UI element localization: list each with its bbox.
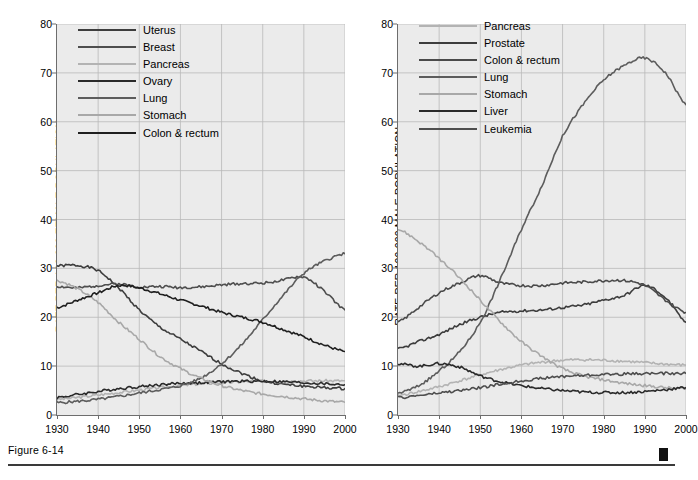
legend-line-swatch	[419, 93, 477, 95]
y-tick-label: 50	[381, 165, 393, 177]
x-tick-mark	[645, 415, 646, 419]
x-tick-label: 1970	[210, 423, 233, 435]
x-tick-label: 1940	[427, 423, 450, 435]
legend-item: Ovary	[78, 74, 219, 89]
legend-item: Lung	[419, 70, 560, 85]
y-tick-mark	[393, 366, 397, 367]
legend-item: Pancreas	[78, 56, 219, 71]
legend-line-swatch	[419, 25, 477, 27]
legend-item: Colon & rectum	[419, 52, 560, 67]
legend-item-label: Uterus	[143, 24, 175, 36]
legend-item: Stomach	[419, 87, 560, 102]
x-tick-mark	[439, 415, 440, 419]
caption-divider	[8, 464, 675, 466]
y-tick-mark	[393, 268, 397, 269]
y-tick-label: 70	[40, 67, 52, 79]
y-tick-label: 70	[381, 67, 393, 79]
legend-item-label: Ovary	[143, 75, 172, 87]
legend-line-swatch	[78, 63, 136, 65]
legend-line-swatch	[419, 128, 477, 130]
legend-item: Liver	[419, 104, 560, 119]
charts-row: RATE PER 100,000 FEMALE POPULATION 01020…	[0, 0, 683, 440]
y-tick-mark	[52, 366, 56, 367]
x-tick-mark	[521, 415, 522, 419]
y-tick-label: 20	[381, 311, 393, 323]
x-tick-label: 2000	[674, 423, 697, 435]
x-tick-mark	[57, 415, 58, 419]
legend-item-label: Breast	[143, 41, 175, 53]
y-tick-mark	[393, 24, 397, 25]
legend-item-label: Stomach	[484, 88, 527, 100]
x-tick-label: 1950	[469, 423, 492, 435]
y-tick-mark	[52, 415, 56, 416]
x-tick-mark	[98, 415, 99, 419]
x-tick-label: 1960	[510, 423, 533, 435]
y-tick-mark	[393, 170, 397, 171]
x-tick-label: 1980	[251, 423, 274, 435]
x-tick-mark	[604, 415, 605, 419]
y-tick-label: 20	[40, 311, 52, 323]
y-tick-label: 60	[40, 116, 52, 128]
y-tick-mark	[52, 170, 56, 171]
legend-item: Prostate	[419, 35, 560, 50]
x-tick-label: 1940	[86, 423, 109, 435]
legend-item-label: Stomach	[143, 109, 186, 121]
legend-line-swatch	[419, 59, 477, 61]
legend-line-swatch	[78, 132, 136, 134]
y-tick-mark	[393, 72, 397, 73]
x-tick-mark	[222, 415, 223, 419]
y-tick-mark	[52, 219, 56, 220]
x-tick-mark	[180, 415, 181, 419]
legend-item-label: Colon & rectum	[484, 54, 560, 66]
legend-line-swatch	[78, 46, 136, 48]
legend-line-swatch	[419, 110, 477, 112]
x-tick-mark	[563, 415, 564, 419]
legend-male: PancreasProstateColon & rectumLungStomac…	[419, 18, 560, 136]
legend-line-swatch	[78, 97, 136, 99]
x-tick-label: 1990	[633, 423, 656, 435]
y-tick-mark	[393, 317, 397, 318]
x-tick-label: 1990	[292, 423, 315, 435]
x-tick-label: 1930	[386, 423, 409, 435]
legend-item-label: Liver	[484, 105, 508, 117]
y-tick-mark	[52, 268, 56, 269]
x-tick-label: 1980	[592, 423, 615, 435]
legend-item-label: Pancreas	[484, 20, 530, 32]
y-tick-mark	[393, 121, 397, 122]
chart-male: RATE PER 100,000 MALE POPULATION 0102030…	[341, 0, 682, 440]
y-tick-mark	[52, 121, 56, 122]
legend-line-swatch	[419, 42, 477, 44]
legend-female: UterusBreastPancreasOvaryLungStomachColo…	[78, 22, 219, 140]
y-tick-mark	[393, 415, 397, 416]
y-tick-label: 60	[381, 116, 393, 128]
y-tick-mark	[52, 317, 56, 318]
y-tick-label: 40	[381, 214, 393, 226]
y-tick-mark	[52, 72, 56, 73]
legend-item-label: Prostate	[484, 37, 525, 49]
legend-item: Uterus	[78, 22, 219, 37]
x-tick-label: 1960	[169, 423, 192, 435]
legend-item-label: Lung	[484, 71, 508, 83]
x-tick-mark	[480, 415, 481, 419]
end-of-figure-square-icon	[659, 448, 668, 461]
x-tick-mark	[139, 415, 140, 419]
figure-caption-bar: Figure 6-14	[0, 440, 683, 480]
legend-line-swatch	[78, 29, 136, 31]
y-tick-label: 10	[40, 360, 52, 372]
x-tick-label: 1970	[551, 423, 574, 435]
y-tick-label: 10	[381, 360, 393, 372]
legend-line-swatch	[419, 76, 477, 78]
legend-item-label: Colon & rectum	[143, 127, 219, 139]
x-tick-label: 1950	[128, 423, 151, 435]
y-tick-mark	[52, 24, 56, 25]
y-tick-label: 80	[381, 18, 393, 30]
legend-item: Pancreas	[419, 18, 560, 33]
y-tick-mark	[393, 219, 397, 220]
y-tick-label: 40	[40, 214, 52, 226]
legend-item: Lung	[78, 91, 219, 106]
legend-line-swatch	[78, 80, 136, 82]
legend-item-label: Pancreas	[143, 58, 189, 70]
y-tick-label: 50	[40, 165, 52, 177]
y-tick-label: 30	[40, 262, 52, 274]
